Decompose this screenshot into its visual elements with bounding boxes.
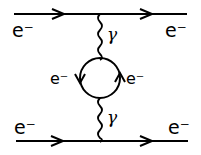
label-bottom-out: e⁻	[168, 116, 190, 138]
label-loop-left: e⁻	[50, 69, 68, 88]
top-electron-line	[14, 9, 187, 19]
label-bottom-in: e⁻	[14, 116, 36, 138]
feynman-diagram: e⁻ e⁻ γ e⁻ e⁻ γ e⁻ e⁻	[0, 0, 201, 155]
top-photon-line	[98, 14, 102, 60]
label-photon-bottom: γ	[107, 107, 118, 127]
bottom-photon-line	[98, 98, 102, 142]
bottom-electron-line	[16, 136, 188, 146]
electron-loop	[75, 58, 125, 98]
label-top-in: e⁻	[12, 19, 34, 41]
label-photon-top: γ	[107, 24, 118, 44]
label-loop-right: e⁻	[126, 69, 144, 88]
label-top-out: e⁻	[165, 19, 187, 41]
